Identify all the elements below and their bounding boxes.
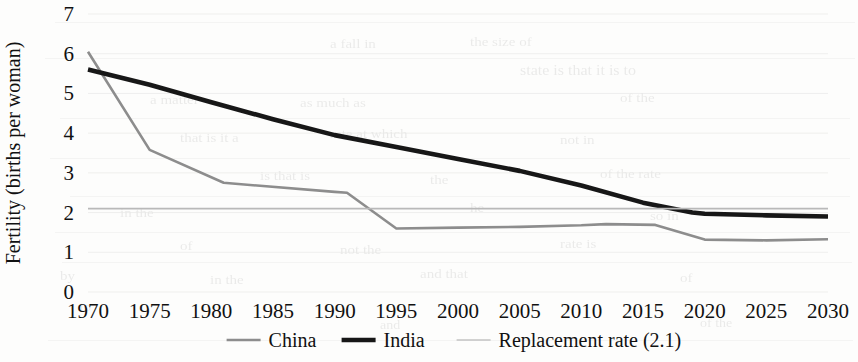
x-tick-label: 2010 [560,299,602,323]
gridlines [88,14,828,292]
x-tick-label: 1970 [67,299,109,323]
x-tick-label: 1980 [190,299,232,323]
y-tick-label: 2 [64,201,75,225]
legend-label-china[interactable]: China [269,329,317,351]
x-tick-label: 2005 [499,299,541,323]
y-axis-title: Fertility (births per woman) [2,42,25,265]
legend-label-replacement-rate-2-1[interactable]: Replacement rate (2.1) [499,329,682,352]
data-series-group [88,52,828,241]
y-tick-label: 6 [64,42,75,66]
x-tick-label: 2025 [745,299,787,323]
y-tick-label: 4 [64,121,75,145]
x-tick-label: 2030 [807,299,849,323]
series-line-india [88,70,828,217]
x-tick-label: 2015 [622,299,664,323]
y-tick-label: 7 [64,2,75,26]
x-tick-label: 2000 [437,299,479,323]
x-tick-label: 1985 [252,299,294,323]
x-tick-label: 1990 [314,299,356,323]
chart-legend: ChinaIndiaReplacement rate (2.1) [227,329,682,352]
x-tick-label: 1975 [129,299,171,323]
y-axis-tick-labels: 01234567 [64,2,75,304]
y-tick-label: 3 [64,161,75,185]
y-tick-label: 5 [64,81,75,105]
fertility-line-chart: 01234567 1970197519801985199019952000200… [0,0,858,362]
y-axis-title-text: Fertility (births per woman) [2,42,25,265]
legend-label-india[interactable]: India [384,329,425,351]
x-tick-label: 2020 [684,299,726,323]
chart-page: a fall inthe size ofstate is that it is … [0,0,858,362]
x-axis-tick-labels: 1970197519801985199019952000200520102015… [67,299,849,323]
y-tick-label: 1 [64,240,75,264]
x-tick-label: 1995 [375,299,417,323]
